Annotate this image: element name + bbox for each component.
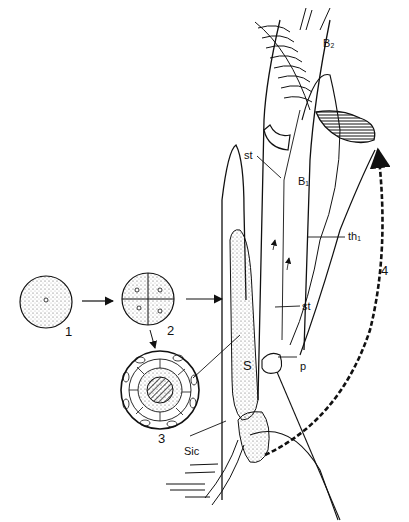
label-S: S: [243, 360, 252, 371]
stage-1-cell: [20, 276, 72, 328]
stage-2-label: 2: [167, 325, 174, 336]
stage-4-label: 4: [381, 265, 388, 276]
label-st-lower: st: [302, 301, 311, 312]
label-B1: B₁: [298, 176, 309, 187]
stage-1-label: 1: [65, 326, 72, 337]
label-p: p: [300, 361, 306, 372]
arrow-2-to-3: [150, 330, 155, 348]
stage-3-label: 3: [158, 433, 165, 444]
main-stalk: [258, 20, 375, 400]
label-st-upper: st: [244, 150, 253, 161]
p-bulb: [262, 353, 282, 373]
rootlets: [166, 440, 244, 505]
diagram-canvas: [0, 0, 409, 522]
stage-3-section: [121, 351, 199, 429]
label-th1: th₁: [348, 231, 361, 242]
label-Sic: Sic: [184, 446, 199, 457]
label-B2: B₂: [323, 38, 335, 49]
stage-2-cell: [122, 273, 174, 325]
leader-lines: [190, 156, 345, 436]
